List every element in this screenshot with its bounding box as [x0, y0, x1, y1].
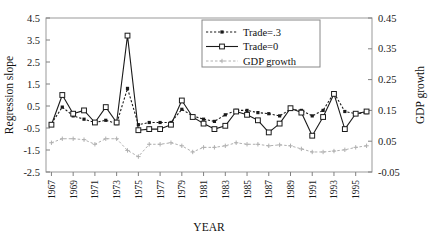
y2-axis-title: GDP growth	[414, 66, 427, 124]
marker-trade0	[114, 120, 119, 125]
y-axis-tick-label: 2.5	[27, 57, 40, 68]
y-axis-tick-label: 4.5	[27, 13, 40, 24]
marker-trade0	[125, 33, 130, 38]
x-axis-tick-label: 1993	[329, 180, 339, 199]
marker-trade0	[212, 127, 217, 132]
x-axis-tick-label: 1991	[308, 180, 318, 199]
y2-axis-tick-label: 0.05	[378, 136, 396, 147]
marker-trade3	[202, 118, 205, 121]
y-axis-tick-label: 1.5	[27, 79, 40, 90]
marker-trade0	[256, 118, 261, 123]
regression-slope-chart: 4.53.52.51.50.5-0.5-1.5-2.50.450.350.250…	[0, 0, 434, 238]
marker-trade3	[148, 121, 151, 124]
x-axis-tick-label: 1971	[90, 180, 100, 199]
marker-trade3	[256, 111, 259, 114]
marker-trade0	[220, 44, 225, 49]
x-axis-tick-label: 1979	[177, 180, 187, 199]
marker-trade3	[61, 106, 64, 109]
marker-trade0	[310, 133, 315, 138]
marker-trade3	[220, 30, 223, 33]
y2-axis-tick-label: -0.05	[378, 167, 400, 178]
marker-trade0	[169, 122, 174, 127]
x-axis-tick-label: 1975	[134, 180, 144, 199]
y2-axis-tick-label: 0.15	[378, 105, 396, 116]
marker-trade3	[267, 112, 270, 115]
marker-trade0	[234, 109, 239, 114]
legend-label-1: Trade=0	[243, 41, 278, 52]
x-axis-tick-label: 1977	[156, 180, 166, 199]
marker-trade0	[147, 127, 152, 132]
marker-trade0	[190, 115, 195, 120]
marker-trade3	[82, 118, 85, 121]
marker-trade0	[277, 121, 282, 126]
marker-trade0	[71, 111, 76, 116]
marker-trade0	[49, 122, 54, 127]
marker-trade3	[180, 108, 183, 111]
marker-trade0	[103, 105, 108, 110]
marker-trade3	[322, 109, 325, 112]
x-axis-tick-label: 1985	[243, 180, 253, 199]
x-axis-tick-label: 1981	[199, 180, 209, 199]
marker-trade0	[223, 123, 228, 128]
marker-trade0	[266, 130, 271, 135]
chart-canvas: 4.53.52.51.50.5-0.5-1.5-2.50.450.350.250…	[0, 0, 434, 238]
marker-trade0	[321, 115, 326, 120]
marker-trade3	[159, 121, 162, 124]
x-axis-tick-label: 1989	[286, 180, 296, 199]
legend-label-2: GDP growth	[243, 56, 297, 67]
marker-trade0	[158, 127, 163, 132]
y-axis-tick-label: 3.5	[27, 35, 40, 46]
marker-trade0	[82, 108, 87, 113]
x-axis-tick-label: 1973	[112, 180, 122, 199]
marker-trade3	[213, 120, 216, 123]
marker-trade3	[311, 114, 314, 117]
marker-trade3	[343, 110, 346, 113]
marker-trade0	[60, 93, 65, 98]
marker-trade0	[364, 109, 369, 114]
marker-trade3	[278, 114, 281, 117]
x-axis-tick-label: 1995	[351, 180, 361, 199]
y-axis-tick-label: 0.5	[27, 101, 40, 112]
marker-trade0	[299, 110, 304, 115]
marker-trade0	[353, 111, 358, 116]
legend-label-0: Trade=.3	[243, 27, 281, 38]
marker-trade0	[288, 106, 293, 111]
marker-trade3	[126, 87, 129, 90]
marker-trade0	[93, 120, 98, 125]
marker-trade0	[136, 128, 141, 133]
y-axis-tick-label: -2.5	[23, 167, 40, 178]
y-axis-title: Regression slope	[3, 56, 16, 134]
marker-trade0	[342, 127, 347, 132]
x-axis-tick-label: 1987	[264, 180, 274, 199]
y2-axis-tick-label: 0.45	[378, 13, 396, 24]
marker-trade0	[332, 92, 337, 97]
marker-trade3	[104, 119, 107, 122]
x-axis-title: YEAR	[193, 221, 225, 233]
y2-axis-tick-label: 0.25	[378, 74, 396, 85]
marker-trade0	[201, 121, 206, 126]
marker-trade0	[179, 98, 184, 103]
marker-trade0	[245, 112, 250, 117]
x-axis-tick-label: 1983	[221, 180, 231, 199]
y-axis-tick-label: -1.5	[23, 145, 40, 156]
y2-axis-tick-label: 0.35	[378, 43, 396, 54]
x-axis-tick-label: 1969	[69, 180, 79, 199]
marker-trade3	[224, 113, 227, 116]
y-axis-tick-label: -0.5	[23, 123, 40, 134]
marker-trade3	[245, 109, 248, 112]
x-axis-tick-label: 1967	[47, 180, 57, 199]
